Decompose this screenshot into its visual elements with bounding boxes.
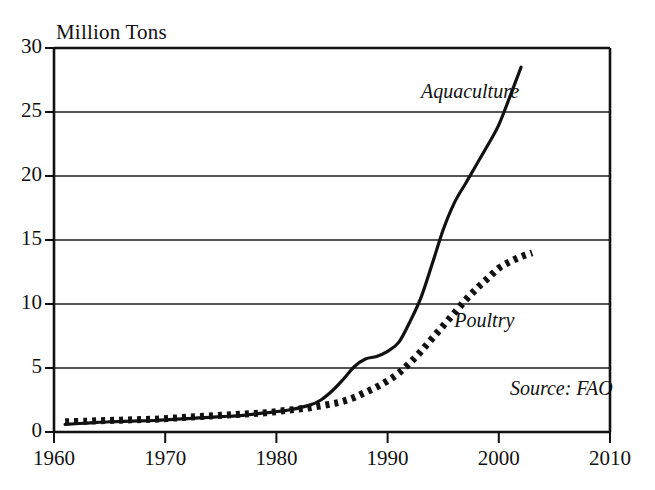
x-tick-label: 1970 <box>135 446 195 471</box>
chart-canvas <box>0 0 655 490</box>
x-tick-label: 1990 <box>358 446 418 471</box>
y-tick-label: 10 <box>21 290 42 315</box>
y-tick-label: 30 <box>21 34 42 59</box>
source-note: Source: FAO <box>510 377 613 400</box>
x-tick-label: 2010 <box>580 446 640 471</box>
y-tick-label: 25 <box>21 98 42 123</box>
poultry-label: Poultry <box>454 309 514 332</box>
y-tick-label: 5 <box>32 354 43 379</box>
series-line-aquaculture <box>65 67 521 424</box>
x-tick-label: 1960 <box>24 446 84 471</box>
aquaculture-poultry-line-chart: Million Tons 051015202530 19601970198019… <box>0 0 655 490</box>
x-tick-label: 1980 <box>246 446 306 471</box>
y-axis-title: Million Tons <box>56 20 167 45</box>
y-tick-label: 0 <box>32 418 43 443</box>
x-tick-label: 2000 <box>469 446 529 471</box>
y-tick-label: 20 <box>21 162 42 187</box>
aquaculture-label: Aquaculture <box>421 80 519 103</box>
series-line-poultry <box>65 253 532 422</box>
y-tick-label: 15 <box>21 226 42 251</box>
